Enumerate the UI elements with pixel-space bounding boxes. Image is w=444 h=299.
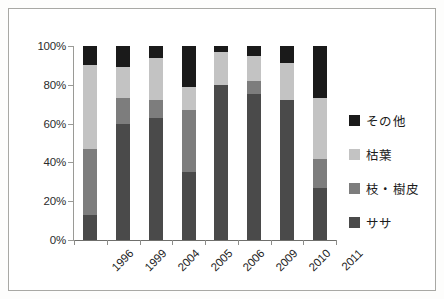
bar-2011 — [313, 46, 327, 240]
legend-swatch-icon — [349, 149, 360, 160]
x-tick-mark — [74, 240, 75, 245]
x-tick-mark — [107, 240, 108, 245]
bar-2006 — [214, 46, 228, 240]
bar-segment — [149, 46, 163, 58]
bar-segment — [182, 172, 196, 240]
y-tick-label: 0% — [50, 234, 66, 246]
y-tick-mark — [68, 162, 74, 163]
bar-segment — [182, 87, 196, 110]
bar-segment — [83, 215, 97, 240]
legend-item[interactable]: ササ — [349, 207, 433, 237]
x-tick-mark — [238, 240, 239, 245]
x-tick-mark — [172, 240, 173, 245]
bar-2009 — [247, 46, 261, 240]
bar-2010 — [280, 46, 294, 240]
bar-segment — [116, 67, 130, 98]
legend-swatch-icon — [349, 115, 360, 126]
x-tick-mark — [336, 240, 337, 245]
bar-segment — [116, 124, 130, 240]
bar-2005 — [182, 46, 196, 240]
y-tick-mark — [68, 46, 74, 47]
legend-item[interactable]: その他 — [349, 105, 433, 135]
bar-segment — [247, 94, 261, 240]
x-tick-mark — [303, 240, 304, 245]
y-tick-label: 100% — [37, 40, 66, 52]
bar-segment — [280, 63, 294, 100]
bar-segment — [83, 46, 97, 65]
legend-item-label: その他 — [366, 111, 406, 130]
plot-area — [74, 46, 336, 240]
legend-swatch-icon — [349, 217, 360, 228]
bar-segment — [149, 58, 163, 101]
legend-swatch-icon — [349, 183, 360, 194]
legend-item-label: 枝・樹皮 — [366, 179, 419, 198]
bar-segment — [116, 46, 130, 67]
bar-segment — [247, 46, 261, 56]
bar-segment — [313, 98, 327, 158]
y-tick-label: 20% — [44, 195, 66, 207]
bar-segment — [313, 188, 327, 240]
bar-1999 — [116, 46, 130, 240]
y-tick-label: 60% — [44, 118, 66, 130]
bar-segment — [280, 46, 294, 63]
bar-1996 — [83, 46, 97, 240]
bar-2004 — [149, 46, 163, 240]
bar-segment — [116, 98, 130, 123]
x-tick-mark — [271, 240, 272, 245]
legend-item[interactable]: 枯葉 — [349, 139, 433, 169]
bar-segment — [182, 110, 196, 172]
legend-item-label: 枯葉 — [366, 145, 393, 164]
chart-figure: 0%20%40%60%80%100% その他枯葉枝・樹皮ササ 199619992… — [0, 0, 444, 299]
bar-segment — [83, 149, 97, 215]
legend-item-label: ササ — [366, 213, 393, 232]
chart-legend: その他枯葉枝・樹皮ササ — [349, 105, 433, 241]
bar-segment — [247, 56, 261, 81]
bar-segment — [313, 46, 327, 98]
x-tick-mark — [205, 240, 206, 245]
y-tick-label: 40% — [44, 156, 66, 168]
x-tick-mark — [140, 240, 141, 245]
y-tick-mark — [68, 85, 74, 86]
y-tick-label: 80% — [44, 79, 66, 91]
bar-segment — [214, 85, 228, 240]
bar-segment — [247, 81, 261, 95]
bar-segment — [214, 52, 228, 85]
bar-segment — [182, 46, 196, 87]
y-axis-labels: 0%20%40%60%80%100% — [0, 0, 66, 299]
bar-segment — [83, 65, 97, 148]
y-tick-mark — [68, 124, 74, 125]
legend-item[interactable]: 枝・樹皮 — [349, 173, 433, 203]
bar-segment — [280, 100, 294, 240]
bar-segment — [313, 159, 327, 188]
bar-segment — [149, 100, 163, 117]
y-tick-mark — [68, 201, 74, 202]
bar-segment — [149, 118, 163, 240]
